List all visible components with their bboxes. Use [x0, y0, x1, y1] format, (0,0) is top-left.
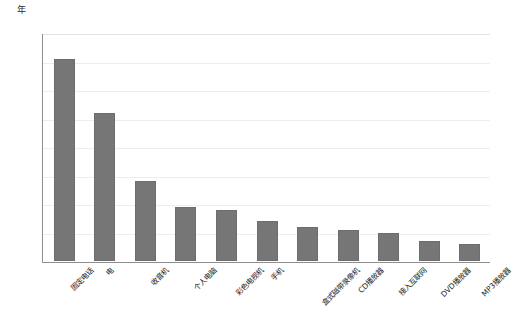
x-axis-tick-labels: 固定电话 电 收音机 个人电脑 彩色电视机 手机 盒式磁带录像机 CD播放器 接…	[43, 263, 491, 327]
y-axis-tick-labels: 80 70 60 50 40 30 20 10 0	[0, 0, 42, 327]
bar[interactable]	[175, 207, 196, 261]
x-label-slot: 盒式磁带录像机	[287, 263, 328, 327]
bar-slot	[368, 34, 409, 261]
x-tick-label: 电	[104, 266, 115, 277]
x-tick-label: MP3播放器	[479, 266, 511, 298]
bar-series	[44, 34, 490, 261]
bar-slot	[85, 34, 126, 261]
x-label-slot: 彩色电视机	[206, 263, 247, 327]
bar-slot	[166, 34, 207, 261]
bar[interactable]	[419, 241, 440, 261]
x-label-slot: CD播放器	[328, 263, 369, 327]
bar-slot	[449, 34, 490, 261]
bar[interactable]	[135, 181, 156, 261]
x-label-slot: 电	[84, 263, 125, 327]
bar[interactable]	[94, 113, 115, 261]
x-label-slot: DVD播放器	[410, 263, 451, 327]
bar-slot	[206, 34, 247, 261]
bar[interactable]	[378, 233, 399, 262]
bar[interactable]	[54, 59, 75, 261]
x-label-slot: 固定电话	[43, 263, 84, 327]
bar[interactable]	[297, 227, 318, 261]
bar[interactable]	[459, 244, 480, 261]
x-label-slot: 手机	[247, 263, 288, 327]
bar[interactable]	[338, 230, 359, 261]
plot-area	[42, 34, 490, 263]
bar-slot	[409, 34, 450, 261]
x-label-slot: 个人电脑	[165, 263, 206, 327]
x-label-slot: 收音机	[124, 263, 165, 327]
bar-slot	[287, 34, 328, 261]
bar[interactable]	[216, 210, 237, 261]
bar-slot	[328, 34, 369, 261]
bar-slot	[125, 34, 166, 261]
bar-slot	[44, 34, 85, 261]
x-tick-label: 手机	[269, 266, 285, 282]
bar-slot	[247, 34, 288, 261]
x-label-slot: MP3播放器	[450, 263, 491, 327]
x-label-slot: 接入互联网	[369, 263, 410, 327]
bar[interactable]	[257, 221, 278, 261]
